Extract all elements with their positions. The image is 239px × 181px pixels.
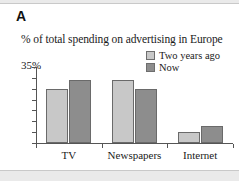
bar-tv-now bbox=[69, 80, 91, 143]
divider-rule-top bbox=[0, 3, 239, 4]
bar-newspapers-now bbox=[135, 89, 157, 143]
bar-tv-two-years-ago bbox=[46, 89, 68, 143]
scan-edge-bottom bbox=[0, 171, 239, 181]
bar-internet-now bbox=[201, 126, 223, 143]
legend-item-two-years-ago: Two years ago bbox=[146, 50, 220, 61]
x-axis-tick bbox=[233, 144, 234, 148]
x-axis-line bbox=[36, 143, 233, 144]
x-label-tv: TV bbox=[61, 149, 76, 161]
x-label-internet: Internet bbox=[183, 149, 217, 161]
y-axis-tick bbox=[32, 110, 36, 111]
panel-letter: A bbox=[16, 9, 26, 23]
chart-title: % of total spending on advertising in Eu… bbox=[21, 33, 223, 45]
legend-label-two-years-ago: Two years ago bbox=[159, 50, 220, 61]
y-axis-tick bbox=[32, 132, 36, 133]
bar-internet-two-years-ago bbox=[178, 132, 200, 143]
x-axis-category-labels: TVNewspapersInternet bbox=[36, 149, 233, 165]
y-axis-tick bbox=[32, 121, 36, 122]
y-axis-tick bbox=[32, 89, 36, 90]
plot-area bbox=[36, 67, 233, 144]
x-axis-tick bbox=[102, 144, 103, 148]
y-axis-tick bbox=[32, 67, 36, 68]
chart-figure: A % of total spending on advertising in … bbox=[0, 0, 239, 181]
y-axis-tick bbox=[32, 78, 36, 79]
y-axis-line bbox=[36, 67, 37, 144]
x-axis-tick bbox=[167, 144, 168, 148]
legend-swatch-two-years-ago bbox=[146, 51, 155, 60]
x-label-newspapers: Newspapers bbox=[108, 149, 162, 161]
bar-newspapers-two-years-ago bbox=[112, 80, 134, 143]
x-axis-tick bbox=[36, 144, 37, 148]
y-axis-tick bbox=[32, 100, 36, 101]
